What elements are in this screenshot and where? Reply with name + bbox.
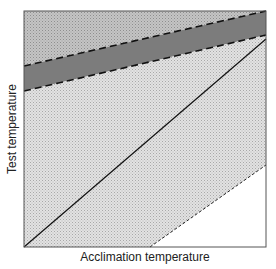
diagram	[0, 0, 276, 269]
x-axis-label: Acclimation temperature	[24, 250, 266, 264]
y-axis-label: Test temperature	[5, 84, 19, 174]
